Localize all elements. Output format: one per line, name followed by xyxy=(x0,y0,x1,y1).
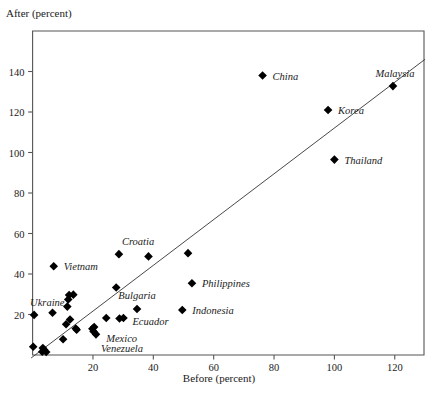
data-point-marker xyxy=(29,342,38,351)
data-point-label: Philippines xyxy=(202,278,250,289)
data-point-marker xyxy=(49,262,58,271)
y-tick-label: 140 xyxy=(9,66,25,77)
data-point-label: Croatia xyxy=(122,236,154,247)
data-point-label: Vietnam xyxy=(64,261,98,272)
data-point-marker xyxy=(324,106,333,115)
scatter-plot-figure: After (percent) 204060801001201402040608… xyxy=(0,0,438,398)
data-point-marker xyxy=(133,305,142,314)
plot-canvas xyxy=(0,0,438,398)
data-point-marker xyxy=(188,279,197,288)
data-point-label: Venezuela xyxy=(101,343,143,354)
data-point-marker xyxy=(102,314,111,323)
data-point-marker xyxy=(330,155,339,164)
data-point-label: Bulgaria xyxy=(118,290,155,301)
data-point-label: Korea xyxy=(338,104,364,115)
y-tick-label: 60 xyxy=(14,228,25,239)
data-point-label: Indonesia xyxy=(192,305,233,316)
y-tick-label: 120 xyxy=(9,107,25,118)
data-point-marker xyxy=(184,249,193,258)
data-point-marker xyxy=(115,250,124,259)
data-point-label: Thailand xyxy=(344,154,382,165)
y-tick-label: 80 xyxy=(14,188,25,199)
data-point-label: Ukraine xyxy=(30,296,64,307)
data-point-marker xyxy=(389,82,398,91)
data-point-label: Malaysia xyxy=(375,68,414,79)
y-tick-label: 40 xyxy=(14,269,25,280)
data-point-label: Ecuador xyxy=(132,315,168,326)
data-point-marker xyxy=(178,306,187,315)
data-point-marker xyxy=(144,252,153,261)
x-axis-title: Before (percent) xyxy=(0,372,438,384)
data-point-marker xyxy=(30,311,39,320)
data-point-marker xyxy=(48,308,57,317)
data-point-label: China xyxy=(273,70,299,81)
data-point-marker xyxy=(258,71,267,80)
y-tick-label: 20 xyxy=(14,309,25,320)
y-tick-label: 100 xyxy=(9,147,25,158)
